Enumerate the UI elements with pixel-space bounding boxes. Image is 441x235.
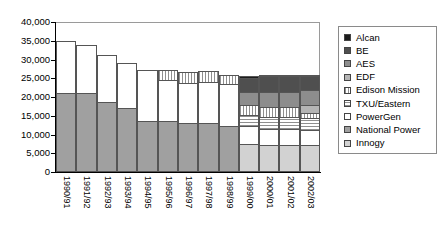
bar-segment[interactable] xyxy=(178,83,198,124)
bar-column[interactable] xyxy=(137,22,157,172)
stacked-bar-chart: 05,00010,00015,00020,00025,00030,00035,0… xyxy=(0,0,441,235)
legend-item-label: Edison Mission xyxy=(356,85,420,95)
x-axis-tick-label: 1992/93 xyxy=(102,176,111,209)
legend-item[interactable]: Innogy xyxy=(344,137,433,150)
legend-item-label: PowerGen xyxy=(356,112,401,122)
bar-segment[interactable] xyxy=(279,145,299,172)
bar-segment[interactable] xyxy=(239,144,259,172)
bar-segment[interactable] xyxy=(259,92,279,107)
x-axis-tick: 1990/91 xyxy=(56,174,76,234)
bar-column[interactable] xyxy=(178,22,198,172)
bar-segment[interactable] xyxy=(76,93,96,172)
bar-segment[interactable] xyxy=(97,102,117,173)
bar-segment[interactable] xyxy=(56,93,76,172)
bar-segment[interactable] xyxy=(300,118,320,130)
x-axis-tick: 1991/92 xyxy=(76,174,96,234)
bar-segment[interactable] xyxy=(198,82,218,124)
bar-column[interactable] xyxy=(300,22,320,172)
bar-segment[interactable] xyxy=(56,41,76,94)
legend-swatch-icon xyxy=(344,126,351,133)
bar-segment[interactable] xyxy=(198,123,218,172)
y-axis-tick-label: 20,000 xyxy=(21,92,50,102)
bar-segment[interactable] xyxy=(178,72,198,83)
x-axis-tick: 2002/03 xyxy=(300,174,320,234)
x-axis-tick: 1999/00 xyxy=(239,174,259,234)
x-axis-tick-label: 1997/98 xyxy=(204,176,213,209)
legend-item[interactable]: BE xyxy=(344,44,433,57)
bar-segment[interactable] xyxy=(300,90,320,105)
bar-segment[interactable] xyxy=(158,70,178,80)
bar-segment[interactable] xyxy=(239,115,259,126)
bar-segment[interactable] xyxy=(239,92,259,106)
bar-segment[interactable] xyxy=(117,108,137,172)
bar-segment[interactable] xyxy=(219,126,239,173)
legend-swatch-icon xyxy=(344,87,351,94)
bar-segment[interactable] xyxy=(219,84,239,125)
legend-item[interactable]: PowerGen xyxy=(344,110,433,123)
bar-segment[interactable] xyxy=(279,107,299,117)
bar-segment[interactable] xyxy=(76,45,96,94)
x-axis-tick: 1993/94 xyxy=(117,174,137,234)
bar-segment[interactable] xyxy=(259,117,279,129)
bar-segment[interactable] xyxy=(300,145,320,172)
y-axis-tick-label: 0 xyxy=(45,167,50,177)
bar-column[interactable] xyxy=(56,22,76,172)
legend-swatch-icon xyxy=(344,140,351,147)
y-axis-tick-mark xyxy=(51,22,55,23)
bar-segment[interactable] xyxy=(279,76,299,92)
y-axis-tick-mark xyxy=(51,97,55,98)
bar-column[interactable] xyxy=(198,22,218,172)
bar-segment[interactable] xyxy=(279,129,299,145)
bar-segment[interactable] xyxy=(300,105,320,113)
bar-segment[interactable] xyxy=(259,129,279,145)
x-axis-tick-label: 1993/94 xyxy=(123,176,132,209)
bar-segment[interactable] xyxy=(239,126,259,144)
legend-item[interactable]: EDF xyxy=(344,71,433,84)
bar-segment[interactable] xyxy=(259,107,279,117)
bar-segment[interactable] xyxy=(279,92,299,107)
chart-legend: AlcanBEAESEDFEdison MissionTXU/EasternPo… xyxy=(338,26,437,154)
bar-segment[interactable] xyxy=(178,123,198,172)
bar-segment[interactable] xyxy=(239,105,259,115)
bar-segment[interactable] xyxy=(300,130,320,145)
bar-segment[interactable] xyxy=(97,55,117,102)
y-axis-tick-mark xyxy=(51,135,55,136)
y-axis-tick-mark xyxy=(51,78,55,79)
bar-segment[interactable] xyxy=(259,145,279,172)
legend-item[interactable]: TXU/Eastern xyxy=(344,97,433,110)
bar-segment[interactable] xyxy=(259,76,279,92)
bar-segment[interactable] xyxy=(137,70,157,121)
x-axis-tick-label: 1990/91 xyxy=(62,176,71,209)
x-axis-tick: 2001/02 xyxy=(279,174,299,234)
bar-segment[interactable] xyxy=(158,80,178,121)
y-axis-tick-label: 30,000 xyxy=(21,55,50,65)
bar-segment[interactable] xyxy=(158,121,178,172)
bar-segment[interactable] xyxy=(137,121,157,172)
bar-column[interactable] xyxy=(279,22,299,172)
bar-column[interactable] xyxy=(158,22,178,172)
x-axis-tick-label: 1995/96 xyxy=(163,176,172,209)
y-axis-tick-label: 40,000 xyxy=(21,17,50,27)
y-axis-tick-mark xyxy=(51,172,55,173)
y-axis-tick-mark xyxy=(51,60,55,61)
bar-column[interactable] xyxy=(239,22,259,172)
bar-segment[interactable] xyxy=(198,71,218,82)
legend-item[interactable]: Edison Mission xyxy=(344,84,433,97)
bar-column[interactable] xyxy=(97,22,117,172)
legend-item[interactable]: National Power xyxy=(344,123,433,136)
x-axis-tick-label: 1999/00 xyxy=(244,176,253,209)
bar-segment[interactable] xyxy=(279,117,299,129)
legend-swatch-icon xyxy=(344,74,351,81)
bar-column[interactable] xyxy=(259,22,279,172)
y-axis-tick-label: 15,000 xyxy=(21,111,50,121)
bar-segment[interactable] xyxy=(239,78,259,92)
legend-item[interactable]: AES xyxy=(344,57,433,70)
bar-column[interactable] xyxy=(219,22,239,172)
bar-segment[interactable] xyxy=(300,76,320,90)
x-axis-tick: 1994/95 xyxy=(137,174,157,234)
bar-segment[interactable] xyxy=(117,63,137,109)
bar-column[interactable] xyxy=(117,22,137,172)
bar-segment[interactable] xyxy=(219,75,239,85)
bar-column[interactable] xyxy=(76,22,96,172)
legend-item[interactable]: Alcan xyxy=(344,31,433,44)
